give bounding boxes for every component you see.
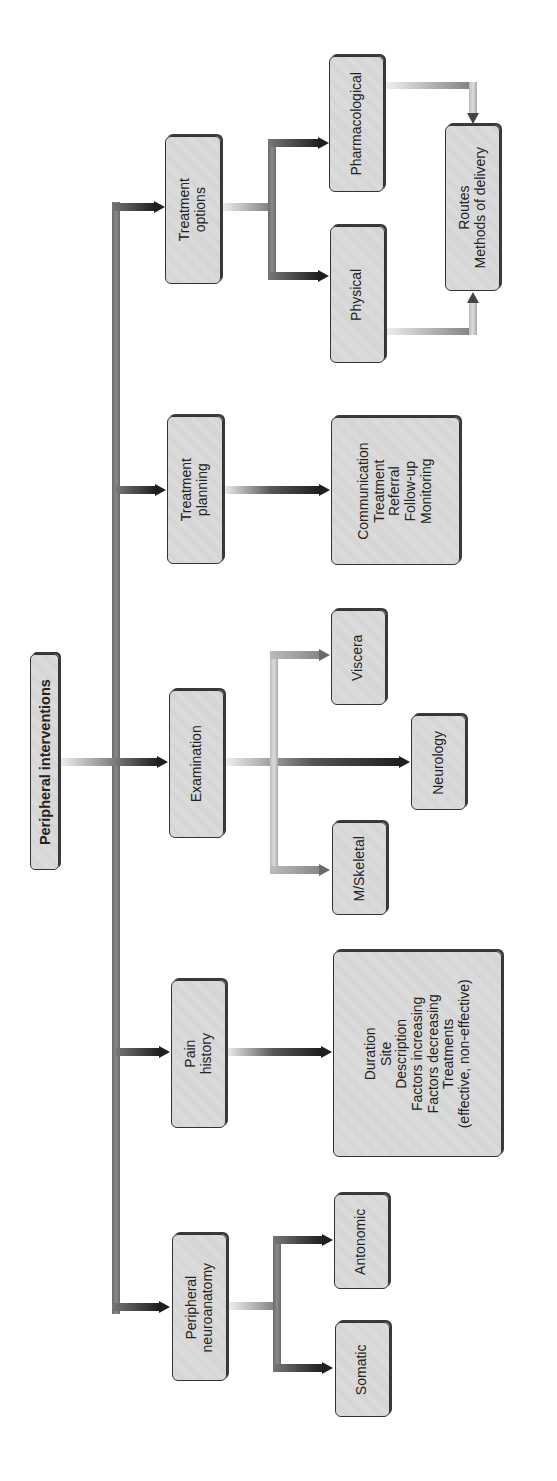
node-treatment-planning: Treatment planning xyxy=(167,416,223,564)
connector xyxy=(469,302,477,335)
connector-peripheral-neuroanatomy xyxy=(112,1303,160,1311)
connector xyxy=(226,1048,322,1056)
node-antonomic: Antonomic xyxy=(334,1194,389,1289)
arrowhead-icon xyxy=(157,756,168,768)
connector xyxy=(385,328,477,335)
arrowhead-icon xyxy=(319,864,330,876)
node-label: Routes Methods of delivery xyxy=(457,147,488,268)
connector-treatment-options xyxy=(112,203,155,211)
node-label: Treatment planning xyxy=(179,458,210,521)
root-connector xyxy=(60,758,116,766)
root-node-peripheral-interventions: Peripheral interventions xyxy=(30,654,59,870)
connector xyxy=(223,486,320,494)
node-label: Pharmacological xyxy=(349,72,365,176)
node-planning-details: Communication Treatment Referral Follow-… xyxy=(331,417,460,565)
connector-treatment-planning xyxy=(116,486,156,494)
node-examination: Examination xyxy=(169,690,224,838)
node-label: Somatic xyxy=(355,1344,371,1395)
connector xyxy=(270,651,320,659)
arrowhead-icon xyxy=(318,270,329,282)
arrowhead-icon xyxy=(322,1362,333,1374)
connector xyxy=(268,140,276,280)
arrowhead-icon xyxy=(154,201,165,213)
connector xyxy=(273,1237,281,1371)
connector xyxy=(273,1364,323,1372)
connector xyxy=(225,758,400,766)
node-neurology: Neurology xyxy=(411,715,466,810)
node-pain-history-details: Duration Site Description Factors increa… xyxy=(333,951,502,1157)
arrowhead-icon xyxy=(321,1046,332,1058)
connector-examination xyxy=(116,758,158,766)
node-routes-methods-of-delivery: Routes Methods of delivery xyxy=(445,125,500,291)
node-pharmacological: Pharmacological xyxy=(329,56,384,192)
arrowhead-icon xyxy=(467,113,479,124)
node-label: Duration Site Description Factors increa… xyxy=(363,980,473,1129)
connector xyxy=(268,272,320,280)
arrowhead-icon xyxy=(155,484,166,496)
node-somatic: Somatic xyxy=(335,1322,390,1417)
arrowhead-icon xyxy=(399,756,410,768)
node-label: Peripheral interventions xyxy=(36,679,52,845)
arrowhead-icon xyxy=(467,292,479,303)
node-treatment-options: Treatment options xyxy=(165,136,221,284)
node-label: Physical xyxy=(350,268,366,320)
connector xyxy=(268,139,320,147)
node-pain-history: Pain history xyxy=(171,980,226,1128)
arrowhead-icon xyxy=(319,484,330,496)
node-viscera: Viscera xyxy=(331,610,386,705)
connector xyxy=(469,82,477,114)
arrowhead-icon xyxy=(159,1301,170,1313)
connector xyxy=(385,82,477,89)
connector xyxy=(228,1302,278,1310)
arrowhead-icon xyxy=(322,1234,333,1246)
arrowhead-icon xyxy=(319,649,330,661)
connector xyxy=(273,1236,323,1244)
node-label: M/Skeletal xyxy=(352,836,368,901)
connector xyxy=(270,866,320,874)
node-label: Examination xyxy=(189,725,205,802)
connector-pain-history xyxy=(116,1048,160,1056)
node-label: Antonomic xyxy=(354,1208,370,1274)
node-label: Neurology xyxy=(431,731,447,795)
connector xyxy=(270,651,278,873)
node-physical: Physical xyxy=(330,226,385,363)
connector xyxy=(222,203,272,211)
node-label: Pain history xyxy=(183,1033,214,1074)
node-label: Viscera xyxy=(351,634,367,680)
node-label: Treatment options xyxy=(177,178,208,241)
node-m-skeletal: M/Skeletal xyxy=(332,822,387,915)
arrowhead-icon xyxy=(159,1046,170,1058)
node-label: Communication Treatment Referral Follow-… xyxy=(356,442,434,539)
node-peripheral-neuroanatomy: Peripheral neuroanatomy xyxy=(172,1234,227,1381)
node-label: Peripheral neuroanatomy xyxy=(184,1263,215,1353)
arrowhead-icon xyxy=(318,137,329,149)
